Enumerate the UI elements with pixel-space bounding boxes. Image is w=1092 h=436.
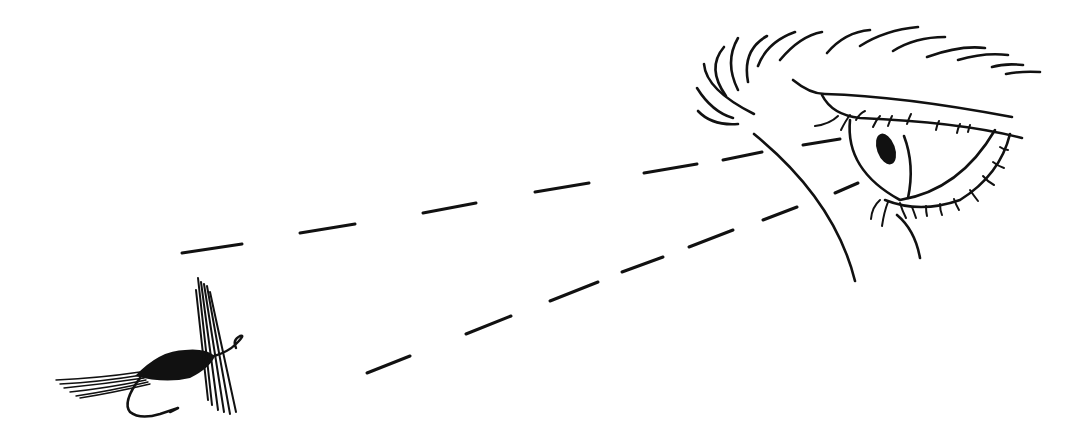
nose-line (754, 134, 855, 281)
lower-sight-line (367, 183, 858, 373)
eyeball-outline (850, 120, 995, 200)
fishing-fly (56, 278, 242, 417)
fly-hook (128, 378, 178, 417)
upper-lashes (815, 111, 970, 133)
upper-lid-crease (793, 80, 1012, 117)
pupil-icon (872, 131, 900, 167)
lower-lid (885, 134, 1010, 207)
iris-line (904, 136, 911, 198)
cheek-fold (897, 215, 920, 258)
fly-hackle (196, 278, 236, 414)
upper-sight-line (182, 139, 840, 253)
illustration-canvas (0, 0, 1092, 436)
eyebrow (697, 27, 1040, 124)
